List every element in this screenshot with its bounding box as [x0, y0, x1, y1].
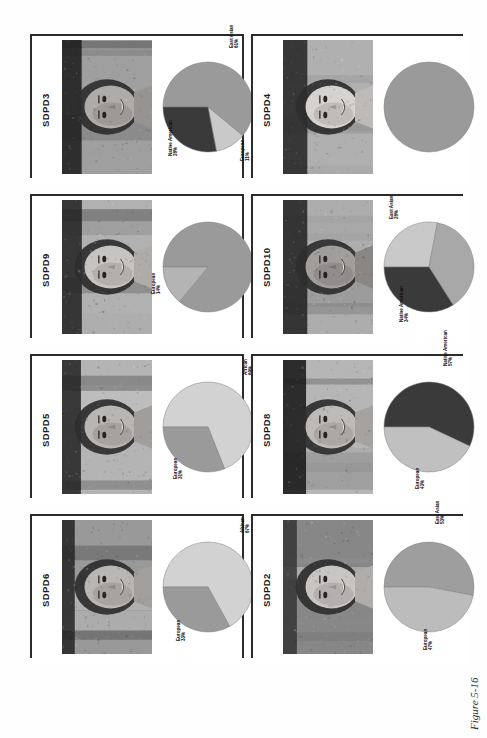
pie-slice-label: Native American34%: [399, 286, 410, 322]
ancestry-pie-chart: [30, 352, 248, 502]
pie-slice-label: European43%: [415, 467, 426, 488]
ancestry-pie-chart: [30, 32, 248, 182]
pie-slice-label-percent: 28%: [173, 120, 178, 156]
pie-slice-label-percent: 43%: [421, 467, 426, 488]
pie-slice-label-percent: 33%: [181, 620, 186, 641]
ancestry-pie-chart: [251, 192, 469, 342]
pie-slice-label-percent: 31%: [178, 458, 183, 479]
pie-slice-label-percent: 61%: [235, 24, 240, 47]
pie-slice-label: European11%: [240, 140, 251, 161]
pie-slice-label-percent: 28%: [394, 195, 399, 218]
pie-slice-label: East Asian28%: [389, 195, 400, 218]
pie-slice-label: European33%: [176, 620, 187, 641]
subject-panel: SDPD6African67%European33%: [30, 512, 248, 662]
pie-slice-label-percent: 14%: [156, 273, 161, 294]
pie-slice: [384, 222, 437, 267]
ancestry-pie-chart: [251, 352, 469, 502]
figure-page: SDPD3East Asian61%European11%Native Amer…: [0, 0, 487, 738]
pie-slice-label: European31%: [173, 458, 184, 479]
pie-slice: [384, 587, 473, 632]
pie-slice-label-percent: 57%: [448, 330, 453, 366]
pie-slice-label: African67%: [240, 517, 251, 533]
pie-slice-label-category: Native American: [399, 286, 404, 322]
subject-panel: SDPD8Native American57%European43%: [251, 352, 469, 502]
subject-panel: SDPD4European100%: [251, 32, 469, 182]
pie-slice-label: Native American28%: [168, 120, 179, 156]
pie-slice-label-percent: 53%: [440, 501, 445, 524]
subject-panel: SDPD5African69%European31%: [30, 352, 248, 502]
pie-slice-label-category: Native American: [168, 120, 173, 156]
ancestry-pie-chart: [251, 512, 469, 662]
ancestry-pie-chart: [30, 192, 248, 342]
pie-slice-label: East Asian53%: [435, 501, 446, 524]
pie-slice-label-percent: 47%: [429, 629, 434, 650]
pie-slice-label-category: Native American: [443, 330, 448, 366]
figure-caption: Figure 5-16: [468, 678, 480, 730]
pie-slice-label: European47%: [423, 629, 434, 650]
pie-slice-label-category: European: [173, 458, 178, 479]
ancestry-pie-chart: [30, 512, 248, 662]
subject-panel: SDPD9East Asian86%European14%: [30, 192, 248, 342]
ancestry-pie-chart: [251, 32, 469, 182]
subject-panel: SDPD3East Asian61%European11%Native Amer…: [30, 32, 248, 182]
subject-panel: SDPD10East Asian28%European38%Native Ame…: [251, 192, 469, 342]
pie-slice: [384, 62, 474, 152]
pie-slice-label-percent: 34%: [404, 286, 409, 322]
pie-slice-label: European14%: [151, 273, 162, 294]
pie-slice-label-category: East Asian: [389, 195, 394, 218]
pie-slice-label: East Asian61%: [229, 24, 240, 47]
pie-slice-label: Native American57%: [443, 330, 454, 366]
subject-panel: SDPD2East Asian53%European47%: [251, 512, 469, 662]
